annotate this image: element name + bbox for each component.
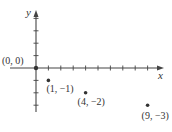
data-label: (0, 0) [2,55,24,67]
data-point [34,66,38,70]
scatter-chart: (0, 0)(1, −1)(4, −2)(9, −3) x y [0,0,172,132]
data-label: (4, −2) [78,96,105,108]
data-label: (9, −3) [142,110,169,122]
points: (0, 0)(1, −1)(4, −2)(9, −3) [2,55,169,122]
data-point [84,91,88,95]
data-point [47,79,51,83]
y-axis-label: y [25,6,31,18]
data-label: (1, −1) [46,83,73,95]
data-point [146,103,150,107]
y-axis-arrow [34,10,39,17]
x-axis-label: x [157,69,163,81]
